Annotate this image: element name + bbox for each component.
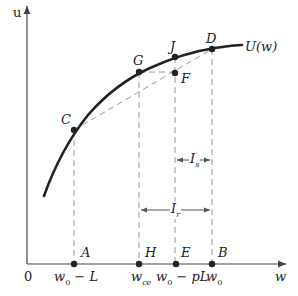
curve-label: U(w) [245, 40, 277, 53]
origin-label: 0 [24, 270, 32, 283]
interval-Ir-label: Ir [170, 202, 181, 219]
point-G-label: G [133, 54, 143, 67]
x-axis-label: w [275, 270, 286, 283]
point-J-label: J [170, 40, 175, 53]
y-axis-label: u [13, 6, 21, 19]
tick-w0-minus-L: w0 − L [54, 270, 98, 287]
tick-w0-minus-pL: w0 − pL [156, 270, 208, 287]
point-H-label: H [145, 246, 156, 259]
utility-diagram: u w 0 U(w) C G J D F A H E B w0 − L wce … [0, 0, 298, 296]
interval-Is-label: Is [189, 152, 200, 169]
point-E-label: E [181, 246, 191, 259]
point-D-label: D [206, 32, 216, 45]
point-A-label: A [81, 246, 90, 259]
point-F-label: F [181, 72, 190, 85]
tick-w0: w0 [206, 270, 222, 287]
tick-w-ce: wce [131, 270, 151, 287]
point-B-label: B [218, 246, 228, 259]
point-C-label: C [61, 113, 71, 126]
